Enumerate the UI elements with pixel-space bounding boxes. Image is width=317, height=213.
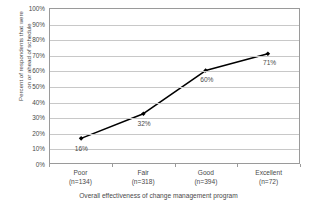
data-point-label: 71%	[263, 59, 276, 66]
x-axis-category-fair: Fair(n=318)	[132, 168, 155, 187]
category-name: Excellent	[255, 168, 282, 177]
gridline	[50, 40, 299, 41]
x-axis-tick-mark	[237, 164, 238, 167]
x-axis-category-labels: Poor(n=134)Fair(n=318)Good(n=394)Excelle…	[49, 168, 300, 190]
gridline	[50, 71, 299, 72]
series-line-chart	[50, 9, 299, 163]
data-point-label: 60%	[200, 76, 213, 83]
gridline	[50, 118, 299, 119]
gridline	[50, 25, 299, 26]
category-sample-size: (n=318)	[132, 177, 155, 186]
x-axis-tick-mark	[112, 164, 113, 167]
data-point-label: 16%	[75, 145, 88, 152]
y-axis-tick-label: 90%	[32, 20, 45, 27]
y-axis-tick-label: 60%	[32, 67, 45, 74]
y-axis-tick-label: 0%	[36, 161, 45, 168]
y-axis-tick-label: 70%	[32, 51, 45, 58]
y-axis-tick-label: 80%	[32, 36, 45, 43]
x-axis-category-poor: Poor(n=134)	[69, 168, 92, 187]
x-axis-tick-mark	[175, 164, 176, 167]
gridline	[50, 56, 299, 57]
y-axis-tick-label: 20%	[32, 129, 45, 136]
plot-area: 16%32%60%71%	[49, 8, 300, 164]
chart-container: Percent of respondents that were on or a…	[0, 0, 317, 213]
gridline	[50, 87, 299, 88]
y-axis-tick-label: 40%	[32, 98, 45, 105]
gridline	[50, 134, 299, 135]
x-axis-title: Overall effectiveness of change manageme…	[0, 192, 317, 199]
data-point-label: 32%	[138, 120, 151, 127]
category-name: Fair	[132, 168, 155, 177]
x-axis-tick-mark	[49, 164, 50, 167]
category-sample-size: (n=134)	[69, 177, 92, 186]
gridline	[50, 103, 299, 104]
y-axis-tick-label: 30%	[32, 114, 45, 121]
x-axis-category-good: Good(n=394)	[194, 168, 217, 187]
y-axis-tick-label: 100%	[29, 5, 45, 12]
category-name: Good	[194, 168, 217, 177]
category-name: Poor	[69, 168, 92, 177]
x-axis-tick-mark	[300, 164, 301, 167]
y-axis-tick-labels: 0%10%20%30%40%50%60%70%80%90%100%	[18, 8, 47, 164]
category-sample-size: (n=394)	[194, 177, 217, 186]
y-axis-tick-label: 50%	[32, 83, 45, 90]
series-line	[81, 54, 268, 139]
data-point-marker	[79, 136, 84, 141]
category-sample-size: (n=72)	[255, 177, 282, 186]
y-axis-tick-label: 10%	[32, 145, 45, 152]
x-axis-category-excellent: Excellent(n=72)	[255, 168, 282, 187]
